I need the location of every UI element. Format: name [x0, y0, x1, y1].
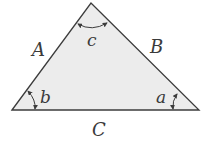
angle-label-c: c [87, 30, 97, 50]
side-label-b: B [149, 36, 163, 57]
side-label-c: C [92, 119, 106, 140]
triangle-diagram: A B C c b a [0, 0, 208, 142]
angle-label-b: b [40, 87, 51, 107]
angle-label-a: a [156, 87, 166, 107]
side-label-a: A [30, 39, 45, 60]
triangle-figure: A B C c b a [0, 0, 208, 142]
